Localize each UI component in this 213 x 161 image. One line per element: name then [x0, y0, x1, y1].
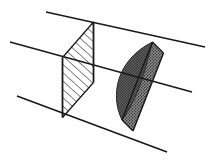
geometric-diagram	[0, 0, 213, 161]
figure-canvas: Two cross-sectional planes intersecting …	[0, 0, 213, 161]
figure-background	[0, 0, 213, 161]
